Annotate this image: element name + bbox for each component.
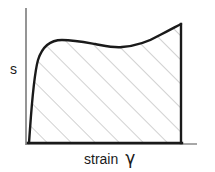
plot-canvas <box>0 0 215 172</box>
hatch-fill <box>26 18 186 146</box>
x-axis-label-text: strain <box>84 152 118 166</box>
y-axis-label: s <box>10 62 17 76</box>
x-axis-label: strain γ <box>84 150 135 167</box>
gamma-symbol: γ <box>125 150 135 167</box>
stress-strain-figure: s strain γ <box>0 0 215 172</box>
hatched-area <box>26 18 186 146</box>
